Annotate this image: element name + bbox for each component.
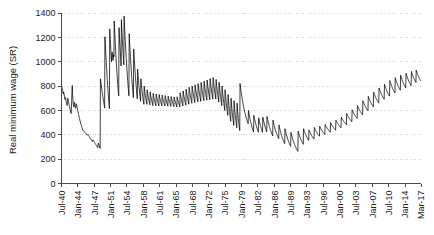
x-tick-label: Jul-61: [155, 191, 165, 216]
y-tick-label: 0: [50, 179, 55, 189]
x-tick-label: Jan-51: [106, 191, 116, 219]
x-tick-label: Jan-14: [400, 191, 410, 219]
y-tick-label: 1400: [35, 8, 55, 18]
gridlines: [62, 13, 422, 159]
x-tick-label: Jan-07: [368, 191, 378, 219]
real-minimum-wage-chart: 0200400600800100012001400 Jul-40Jan-44Ju…: [0, 0, 434, 235]
x-tick-label: Jul-82: [253, 191, 263, 216]
x-tick-label: Jan-79: [237, 191, 247, 219]
y-axis-ticks: 0200400600800100012001400: [35, 8, 61, 189]
x-tick-label: Jul-75: [220, 191, 230, 216]
series-lines: [62, 16, 422, 151]
x-tick-label: Jul-68: [188, 191, 198, 216]
x-tick-label: Jan-72: [204, 191, 214, 219]
y-tick-label: 1000: [35, 57, 55, 67]
x-tick-label: Jan-44: [73, 191, 83, 219]
x-axis-ticks: Jul-40Jan-44Jul-47Jan-51Jul-54Jan-58Jul-…: [57, 184, 427, 220]
x-tick-label: Jan-86: [270, 191, 280, 219]
y-tick-label: 600: [40, 106, 55, 116]
y-tick-label: 1200: [35, 33, 55, 43]
x-tick-label: Jan-65: [171, 191, 181, 219]
x-tick-label: Jan-58: [139, 191, 149, 219]
y-tick-label: 800: [40, 81, 55, 91]
x-tick-label: Jul-10: [384, 191, 394, 216]
x-tick-label: Jan-93: [302, 191, 312, 219]
chart-canvas: 0200400600800100012001400 Jul-40Jan-44Ju…: [0, 0, 434, 235]
x-tick-label: Jul-89: [286, 191, 296, 216]
x-tick-label: Jul-03: [351, 191, 361, 216]
y-tick-label: 200: [40, 154, 55, 164]
x-tick-label: Jul-54: [122, 191, 132, 216]
series-line: [62, 16, 422, 151]
x-tick-label: Jan-00: [335, 191, 345, 219]
x-tick-label: Jul-96: [319, 191, 329, 216]
y-tick-label: 400: [40, 130, 55, 140]
x-tick-label: Mar-17: [416, 191, 426, 220]
y-axis-title: Real minimum wage (SR): [7, 46, 18, 154]
x-tick-label: Jul-47: [90, 191, 100, 216]
axes: [62, 13, 422, 184]
x-tick-label: Jul-40: [57, 191, 67, 216]
